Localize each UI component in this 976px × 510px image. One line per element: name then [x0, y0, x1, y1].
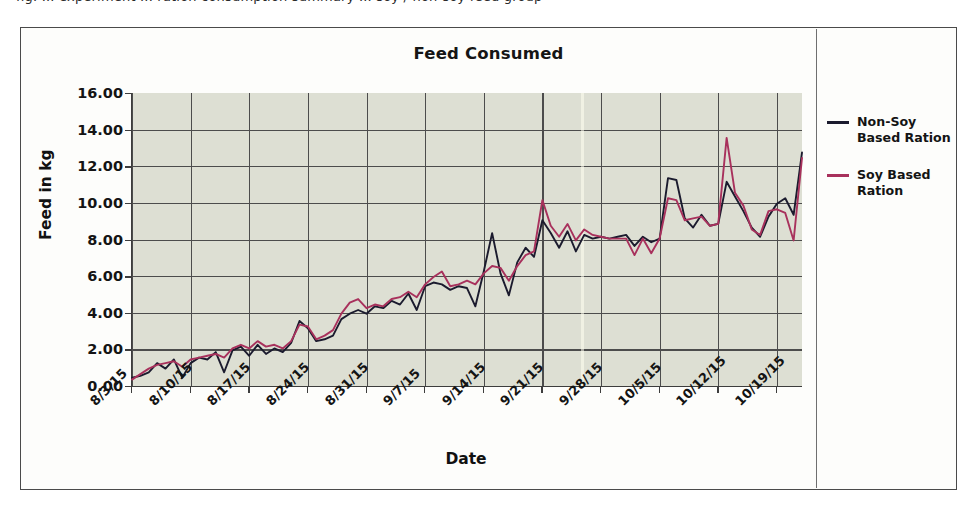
- legend-entry[interactable]: Soy Based Ration: [827, 167, 955, 198]
- y-axis-tick-label: 2.00: [59, 341, 123, 357]
- x-axis-tick-mark: [424, 386, 425, 393]
- series-lines: [132, 93, 802, 386]
- y-axis-tick-label: 12.00: [59, 158, 123, 174]
- x-axis-tick-mark: [541, 386, 542, 393]
- x-axis-tick-mark: [307, 386, 308, 393]
- legend-line-swatch: [827, 174, 849, 177]
- y-axis-tick-mark: [125, 130, 132, 131]
- series-line: [132, 153, 802, 378]
- y-axis-tick-mark: [125, 349, 132, 350]
- y-axis-tick-label: 4.00: [59, 305, 123, 321]
- legend-line-swatch: [827, 121, 849, 124]
- page-top-text: fig. ... experiment ... ration consumpti…: [16, 0, 542, 4]
- x-axis-title: Date: [131, 450, 801, 468]
- plot-area: [131, 93, 802, 387]
- y-axis-tick-mark: [125, 313, 132, 314]
- legend-entry[interactable]: Non-Soy Based Ration: [827, 114, 955, 145]
- legend-label: Soy Based Ration: [857, 167, 930, 198]
- y-axis-tick-mark: [125, 240, 132, 241]
- legend-divider: [816, 29, 817, 488]
- page-top-text-sliver: fig. ... experiment ... ration consumpti…: [0, 0, 976, 14]
- y-axis-tick-mark: [125, 276, 132, 277]
- series-line: [132, 138, 802, 380]
- x-axis-tick-mark: [483, 386, 484, 393]
- x-axis-tick-mark: [366, 386, 367, 393]
- x-axis-tick-mark: [659, 386, 660, 393]
- y-axis-tick-label: 10.00: [59, 195, 123, 211]
- x-axis-tick-mark: [131, 386, 132, 393]
- y-axis-tick-mark: [125, 93, 132, 94]
- y-axis-tick-label: 6.00: [59, 268, 123, 284]
- x-axis-tick-mark: [600, 386, 601, 393]
- y-axis-tick-mark: [125, 166, 132, 167]
- x-axis-tick-mark: [776, 386, 777, 393]
- y-axis-tick-mark: [125, 203, 132, 204]
- legend-label: Non-Soy Based Ration: [857, 114, 951, 145]
- y-axis-title: Feed in kg: [37, 149, 55, 240]
- chart-legend: Non-Soy Based RationSoy Based Ration: [827, 114, 955, 220]
- chart-figure-frame: Feed Consumed Feed in kg Date 16.0014.00…: [20, 27, 957, 490]
- x-axis-tick-mark: [190, 386, 191, 393]
- y-axis-tick-label: 16.00: [59, 85, 123, 101]
- x-axis-tick-mark: [248, 386, 249, 393]
- x-axis-tick-mark: [717, 386, 718, 393]
- y-axis-tick-label: 8.00: [59, 232, 123, 248]
- y-axis-tick-label: 14.00: [59, 122, 123, 138]
